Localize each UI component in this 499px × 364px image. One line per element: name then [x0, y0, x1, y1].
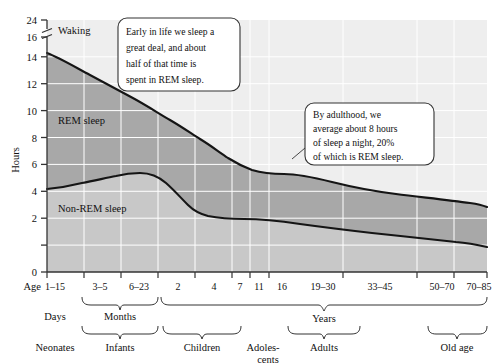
stage-label-oldage: Old age [441, 342, 474, 353]
ytick-16: 16 [27, 32, 38, 43]
ytick-0: 0 [32, 267, 37, 278]
xtick-5: 7 [238, 281, 243, 292]
region-label-nonrem: Non-REM sleep [58, 203, 127, 214]
x-axis-title: Age [24, 281, 42, 292]
ytick-12: 12 [27, 79, 38, 90]
xtick-1: 3–5 [93, 281, 108, 292]
ytick-2: 2 [32, 213, 37, 224]
ytick-4: 4 [32, 186, 38, 197]
xtick-0: 1–15 [45, 281, 65, 292]
callout-adulthood-line-2: average about 8 hours [313, 123, 398, 134]
xtick-10: 50–70 [430, 281, 455, 292]
stage-label-neonates: Neonates [35, 342, 74, 353]
stage-label-adolescents-line2: cents [257, 354, 279, 364]
callout-adulthood-line-4: of which is REM sleep. [313, 151, 403, 162]
xtick-4: 4 [212, 281, 217, 292]
region-label-rem: REM sleep [58, 115, 105, 126]
stage-label-adolescents-line1: Adoles- [246, 342, 280, 353]
sleep-stages-figure: Waking REM sleep Non-REM sleep [0, 0, 499, 364]
callout-early-life-line-3: half of that time is [126, 58, 197, 69]
y-axis-title: Hours [10, 147, 21, 173]
xtick-6: 11 [254, 281, 264, 292]
callout-early-life: Early in life we sleep a great deal, and… [118, 18, 240, 91]
xtick-7: 16 [277, 281, 287, 292]
callout-adulthood-line-1: By adulthood, we [313, 109, 381, 120]
xtick-9: 33–45 [368, 281, 393, 292]
xtick-2: 6–23 [129, 281, 149, 292]
unit-label-days: Days [44, 311, 66, 322]
xtick-3: 2 [176, 281, 181, 292]
stage-label-children: Children [184, 342, 221, 353]
unit-label-years: Years [312, 313, 335, 324]
ytick-24: 24 [27, 15, 38, 26]
ytick-8: 8 [32, 133, 37, 144]
xtick-11: 70–85 [467, 281, 492, 292]
region-label-waking: Waking [58, 25, 91, 36]
unit-label-months: Months [104, 311, 136, 322]
xtick-8: 19–30 [311, 281, 336, 292]
stage-label-infants: Infants [105, 342, 134, 353]
callout-adulthood: By adulthood, we average about 8 hours o… [292, 103, 434, 165]
ytick-6: 6 [32, 159, 37, 170]
callout-adulthood-line-3: of sleep a night, 20% [313, 137, 394, 148]
chart-canvas: Waking REM sleep Non-REM sleep [0, 0, 499, 364]
callout-early-life-line-4: spent in REM sleep. [126, 74, 204, 85]
stage-label-adults: Adults [310, 342, 338, 353]
ytick-14: 14 [27, 52, 38, 63]
ytick-10: 10 [27, 106, 38, 117]
callout-early-life-line-1: Early in life we sleep a [126, 26, 215, 37]
callout-early-life-line-2: great deal, and about [126, 42, 206, 53]
